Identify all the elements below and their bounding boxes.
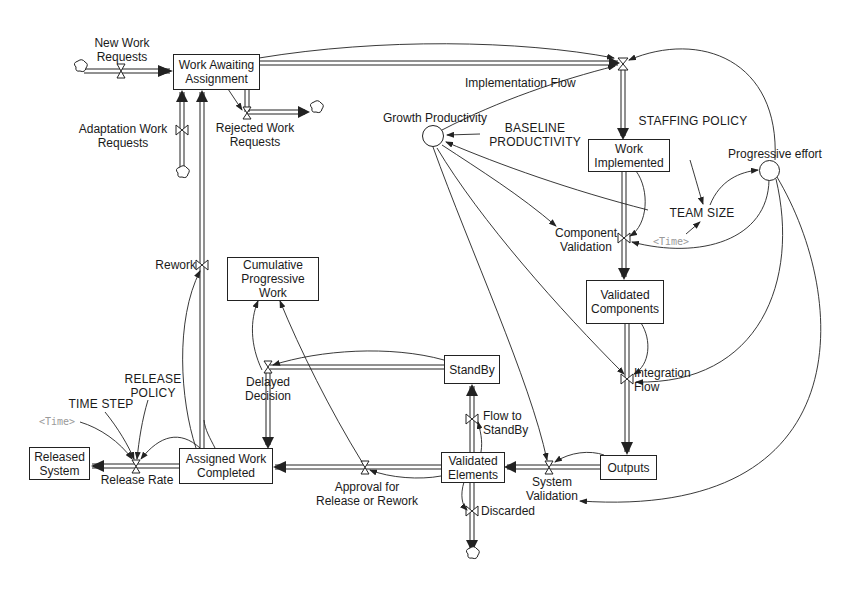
flow-label-delayed-decision: Delayed Decision: [240, 375, 296, 403]
aux-label-progressive-effort: Progressive effort: [720, 147, 830, 161]
valve-implementation: [618, 58, 628, 70]
constant-time-step[interactable]: TIME STEP: [64, 397, 138, 411]
pipe-delayed-decision-h: [270, 365, 444, 369]
pipe-adaptation: [180, 92, 184, 175]
valve-system-validation: [545, 461, 553, 474]
flow-label-system-validation: System Validation: [522, 475, 582, 503]
stock-outputs[interactable]: Outputs: [600, 455, 657, 480]
pipe-discarded: [470, 482, 474, 550]
valve-delayed-decision: [264, 361, 272, 373]
cloud-discarded-sink-icon: [466, 547, 479, 559]
flow-label-adaptation-work-requests: Adaptation Work Requests: [70, 122, 176, 150]
pipe-rework: [200, 92, 204, 448]
flow-label-integration-flow: Integration Flow: [634, 366, 704, 394]
pipe-rejected: [245, 89, 305, 114]
valve-flow-to-standby: [466, 414, 478, 424]
constant-team-size[interactable]: TEAM SIZE: [662, 206, 742, 220]
valve-integration: [621, 374, 633, 384]
constant-staffing-policy[interactable]: STAFFING POLICY: [634, 114, 752, 128]
pipe-system-validation: [507, 465, 600, 469]
flow-label-flow-to-standby: Flow to StandBy: [483, 409, 543, 437]
stock-validated-elements[interactable]: Validated Elements: [441, 452, 505, 483]
cloud-rejected-sink-icon: [310, 101, 323, 113]
constant-baseline-productivity[interactable]: BASELINE PRODUCTIVITY: [480, 121, 590, 149]
stock-cumulative-progressive-work[interactable]: Cumulative Progressive Work: [227, 257, 319, 301]
flow-label-new-work-requests: New Work Requests: [82, 36, 162, 64]
stock-work-awaiting-assignment[interactable]: Work Awaiting Assignment: [173, 54, 260, 90]
aux-progressive-effort-circle[interactable]: [759, 160, 780, 181]
flow-label-component-validation: Component Validation: [552, 226, 620, 254]
shadow-time-left: <Time>: [32, 415, 82, 429]
valve-rejected: [243, 107, 251, 119]
pipe-component-validation: [622, 171, 626, 277]
constant-release-policy[interactable]: RELEASE POLICY: [122, 372, 184, 400]
valve-discarded: [466, 506, 478, 516]
aux-growth-productivity-circle[interactable]: [422, 125, 444, 147]
valve-rework: [196, 260, 208, 270]
stock-standby[interactable]: StandBy: [444, 355, 500, 384]
stock-flow-diagram: Work Awaiting Assignment Work Implemente…: [0, 0, 861, 594]
flow-label-rejected-work-requests: Rejected Work Requests: [205, 121, 305, 149]
valve-release-rate: [132, 460, 140, 473]
diagram-connectors: [0, 0, 861, 594]
valve-adaptation: [176, 125, 188, 135]
flow-label-discarded: Discarded: [481, 504, 551, 518]
flow-label-implementation-flow: Implementation Flow: [465, 76, 605, 90]
flow-label-rework: Rework: [140, 258, 196, 272]
pipe-impl-down: [621, 68, 625, 136]
valve-approval: [361, 461, 369, 474]
flow-label-approval-for-release-or-rework: Approval for Release or Rework: [307, 480, 427, 508]
valve-new-work: [117, 64, 125, 78]
cloud-adaptation-source-icon: [176, 166, 189, 178]
stock-released-system[interactable]: Released System: [29, 447, 90, 480]
stock-validated-components[interactable]: Validated Components: [586, 280, 664, 324]
flow-label-release-rate: Release Rate: [96, 473, 178, 487]
stock-work-implemented[interactable]: Work Implemented: [588, 139, 670, 172]
stock-assigned-work-completed[interactable]: Assigned Work Completed: [179, 448, 273, 484]
shadow-time-right: <Time>: [646, 235, 696, 249]
pipe-approval: [275, 465, 441, 469]
pipe-implementation-flow: [259, 61, 618, 65]
pipe-integration-flow: [625, 323, 629, 452]
